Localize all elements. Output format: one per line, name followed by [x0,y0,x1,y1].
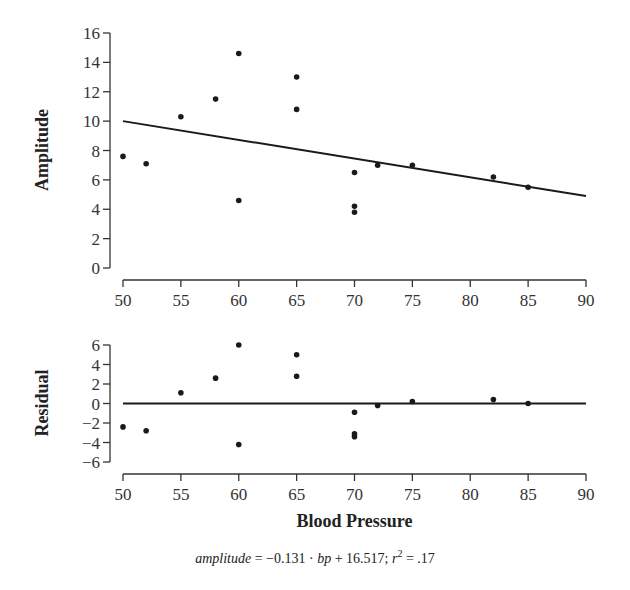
data-point [213,375,219,381]
x-tick-label: 70 [346,485,363,504]
data-point [236,342,242,348]
y-tick-label: 2 [92,375,101,394]
y-tick-label: −4 [82,434,101,453]
data-point [213,96,219,102]
data-point [143,428,149,434]
data-point [294,373,300,379]
x-tick-label: 85 [520,291,537,310]
y-axis-title: Residual [32,369,52,436]
data-point [352,170,358,176]
y-tick-label: 0 [92,259,101,278]
x-tick-label: 60 [230,485,247,504]
x-tick-label: 80 [462,291,479,310]
regression-equation-caption: amplitude = −0.131 · bp + 16.517; r2 = .… [0,548,630,567]
y-tick-label: 12 [83,83,100,102]
data-point [352,204,358,210]
y-tick-label: 6 [92,336,101,355]
y-tick-label: −6 [82,453,100,472]
fit-line [123,121,586,196]
x-tick-label: 75 [404,291,421,310]
y-tick-label: 8 [92,142,101,161]
x-tick-label: 70 [346,291,363,310]
x-tick-label: 60 [230,291,247,310]
x-tick-label: 65 [288,291,305,310]
x-tick-label: 90 [578,291,595,310]
y-tick-label: 6 [92,171,101,190]
amplitude-scatter-plot: 0246810121416505560657075808590Amplitude [32,24,595,310]
x-tick-label: 55 [172,485,189,504]
data-point [352,209,358,215]
data-point [143,161,149,167]
data-point [491,397,497,403]
data-point [178,390,184,396]
y-tick-label: 4 [92,200,101,219]
data-point [120,424,126,430]
x-axis-title: Blood Pressure [297,511,413,531]
residual-scatter-plot: −6−4−20246505560657075808590ResidualBloo… [32,336,595,531]
y-tick-label: 14 [83,53,101,72]
y-tick-label: −2 [82,414,100,433]
data-point [236,442,242,448]
regression-figure: 0246810121416505560657075808590Amplitude… [0,0,630,590]
caption-eq-3: = .17 [402,551,434,566]
y-tick-label: 10 [83,112,100,131]
y-tick-label: 4 [92,356,101,375]
x-tick-label: 50 [115,291,132,310]
data-point [294,107,300,113]
x-tick-label: 80 [462,485,479,504]
y-axis-title: Amplitude [32,109,52,191]
caption-eq-1: = −0.131 · [251,551,317,566]
data-point [294,74,300,80]
y-tick-label: 2 [92,230,101,249]
data-point [294,352,300,358]
data-point [236,51,242,57]
x-tick-label: 75 [404,485,421,504]
data-point [491,174,497,180]
data-point [178,114,184,120]
caption-lhs: amplitude [195,551,251,566]
data-point [352,409,358,415]
data-point [120,154,126,160]
y-tick-label: 0 [92,395,101,414]
x-tick-label: 50 [115,485,132,504]
x-tick-label: 90 [578,485,595,504]
y-tick-label: 16 [83,24,100,43]
x-tick-label: 65 [288,485,305,504]
data-point [352,434,358,440]
x-tick-label: 55 [172,291,189,310]
caption-var: bp [317,551,331,566]
caption-eq-2: + 16.517; [331,551,392,566]
data-point [236,198,242,204]
x-tick-label: 85 [520,485,537,504]
